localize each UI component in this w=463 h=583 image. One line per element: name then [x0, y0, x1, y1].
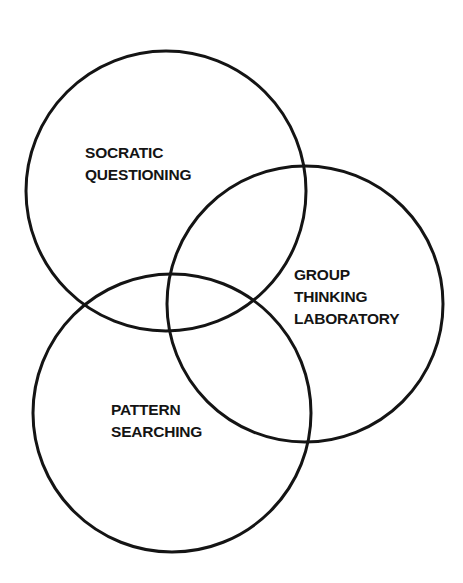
label-line: SEARCHING	[111, 421, 202, 443]
label-line: PATTERN	[111, 399, 202, 421]
label-group-thinking-laboratory: GROUP THINKING LABORATORY	[294, 264, 399, 330]
label-line: LABORATORY	[294, 308, 399, 330]
label-line: GROUP	[294, 264, 399, 286]
label-line: THINKING	[294, 286, 399, 308]
label-line: QUESTIONING	[85, 164, 191, 186]
label-pattern-searching: PATTERN SEARCHING	[111, 399, 202, 443]
label-line: SOCRATIC	[85, 142, 191, 164]
label-socratic-questioning: SOCRATIC QUESTIONING	[85, 142, 191, 186]
circle-socratic-questioning	[26, 51, 306, 331]
